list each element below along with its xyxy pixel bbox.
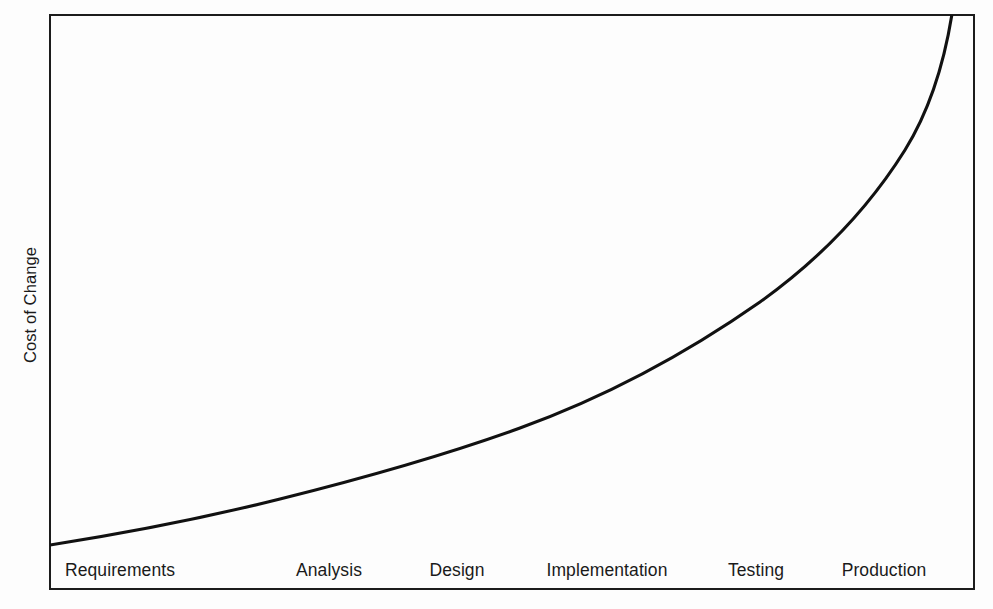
x-axis-label-requirements: Requirements: [65, 560, 175, 581]
cost-of-change-chart: Cost of Change Requirements Analysis Des…: [0, 0, 993, 609]
x-axis-label-analysis: Analysis: [296, 560, 362, 581]
x-axis-label-implementation: Implementation: [546, 560, 667, 581]
curve-layer: [0, 0, 993, 609]
x-axis-label-design: Design: [429, 560, 484, 581]
x-axis-label-production: Production: [842, 560, 927, 581]
x-axis-label-testing: Testing: [728, 560, 784, 581]
y-axis-title: Cost of Change: [21, 247, 40, 363]
cost-of-change-curve: [50, 14, 952, 545]
